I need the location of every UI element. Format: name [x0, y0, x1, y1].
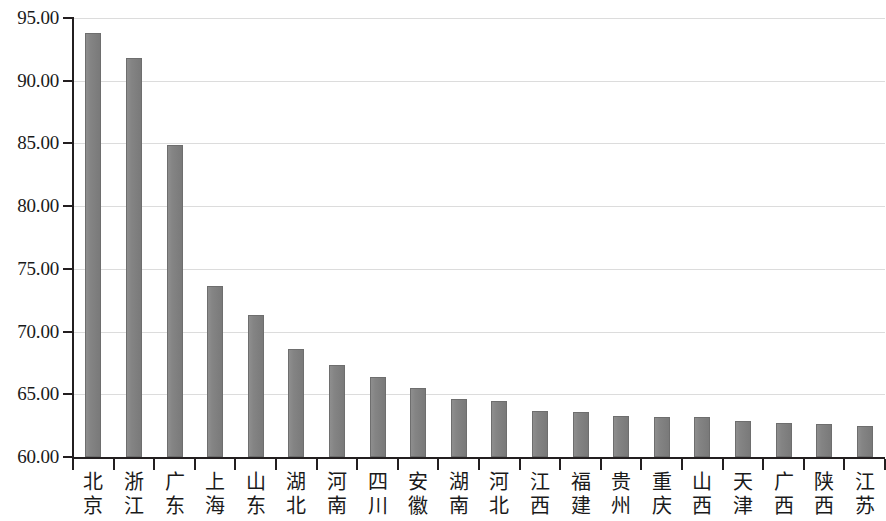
y-tick-mark — [63, 393, 74, 395]
y-tick-label: 90.00 — [3, 71, 59, 90]
bar — [288, 349, 304, 457]
x-tick-label-char: 西 — [685, 494, 719, 518]
x-tick-label-char: 海 — [198, 494, 232, 518]
y-tick-mark — [63, 17, 74, 19]
bar — [248, 315, 264, 457]
x-tick-mark — [722, 459, 724, 470]
x-tick-label-char: 京 — [76, 494, 110, 518]
x-tick-label-char: 广 — [767, 470, 801, 494]
x-tick-mark — [275, 459, 277, 470]
bar — [694, 417, 710, 457]
bar — [613, 416, 629, 457]
x-tick-label-char: 南 — [442, 494, 476, 518]
x-tick-label: 江西 — [523, 470, 557, 518]
x-tick-label-char: 津 — [726, 494, 760, 518]
x-tick-label-char: 陕 — [807, 470, 841, 494]
x-tick-label-char: 浙 — [117, 470, 151, 494]
x-tick-label-char: 北 — [76, 470, 110, 494]
bar — [491, 401, 507, 457]
x-tick-label: 上海 — [198, 470, 232, 518]
y-tick-mark — [63, 456, 74, 458]
bar — [370, 377, 386, 457]
x-tick-mark — [234, 459, 236, 470]
x-tick-label: 山西 — [685, 470, 719, 518]
y-tick-mark — [63, 205, 74, 207]
x-tick-mark — [194, 459, 196, 470]
x-tick-mark — [559, 459, 561, 470]
x-tick-label: 天津 — [726, 470, 760, 518]
x-tick-mark — [356, 459, 358, 470]
y-tick-mark — [63, 331, 74, 333]
y-tick-label: 80.00 — [3, 196, 59, 215]
x-tick-label: 广西 — [767, 470, 801, 518]
x-tick-label: 福建 — [564, 470, 598, 518]
x-tick-label-char: 西 — [523, 494, 557, 518]
x-tick-label: 河南 — [320, 470, 354, 518]
y-tick-label: 95.00 — [3, 8, 59, 27]
x-tick-label: 山东 — [239, 470, 273, 518]
x-tick-label-char: 安 — [401, 470, 435, 494]
x-tick-label-char: 天 — [726, 470, 760, 494]
x-tick-label: 陕西 — [807, 470, 841, 518]
x-tick-label: 湖南 — [442, 470, 476, 518]
x-tick-label-char: 山 — [685, 470, 719, 494]
x-tick-label: 河北 — [482, 470, 516, 518]
x-tick-label: 江苏 — [848, 470, 882, 518]
x-tick-label-char: 上 — [198, 470, 232, 494]
bar — [654, 417, 670, 457]
bar — [207, 286, 223, 457]
gridline — [73, 206, 885, 207]
y-tick-label: 75.00 — [3, 259, 59, 278]
bar — [573, 412, 589, 457]
x-tick-label: 浙江 — [117, 470, 151, 518]
x-tick-mark — [843, 459, 845, 470]
bar — [126, 58, 142, 457]
y-tick-mark — [63, 142, 74, 144]
x-tick-label-char: 徽 — [401, 494, 435, 518]
gridline — [73, 394, 885, 395]
x-tick-mark — [762, 459, 764, 470]
x-tick-label-char: 北 — [279, 494, 313, 518]
x-tick-label-char: 福 — [564, 470, 598, 494]
x-tick-label-char: 川 — [361, 494, 395, 518]
x-tick-mark — [681, 459, 683, 470]
x-tick-label-char: 南 — [320, 494, 354, 518]
bar — [857, 426, 873, 457]
x-tick-label-char: 西 — [767, 494, 801, 518]
y-tick-label: 65.00 — [3, 384, 59, 403]
x-tick-label-char: 江 — [523, 470, 557, 494]
x-tick-label: 贵州 — [604, 470, 638, 518]
x-tick-label: 四川 — [361, 470, 395, 518]
y-tick-mark — [63, 80, 74, 82]
x-tick-label: 湖北 — [279, 470, 313, 518]
x-tick-label-char: 西 — [807, 494, 841, 518]
x-tick-mark — [113, 459, 115, 470]
x-tick-mark — [72, 459, 74, 470]
y-tick-mark — [63, 268, 74, 270]
bar — [410, 388, 426, 457]
gridline — [73, 143, 885, 144]
bar — [532, 411, 548, 457]
x-tick-mark — [316, 459, 318, 470]
x-tick-label-char: 东 — [239, 494, 273, 518]
x-tick-label-char: 广 — [158, 470, 192, 494]
x-tick-mark — [397, 459, 399, 470]
x-tick-mark — [803, 459, 805, 470]
bar — [167, 145, 183, 457]
x-tick-label: 北京 — [76, 470, 110, 518]
x-tick-mark — [478, 459, 480, 470]
gridline — [73, 332, 885, 333]
x-tick-label-char: 湖 — [442, 470, 476, 494]
bar — [816, 424, 832, 457]
x-tick-label-char: 山 — [239, 470, 273, 494]
x-tick-label-char: 州 — [604, 494, 638, 518]
bar — [451, 399, 467, 457]
x-tick-label: 重庆 — [645, 470, 679, 518]
x-tick-label-char: 贵 — [604, 470, 638, 494]
x-tick-mark — [600, 459, 602, 470]
x-tick-mark — [640, 459, 642, 470]
x-tick-label-char: 东 — [158, 494, 192, 518]
x-tick-mark — [437, 459, 439, 470]
x-tick-label: 广东 — [158, 470, 192, 518]
